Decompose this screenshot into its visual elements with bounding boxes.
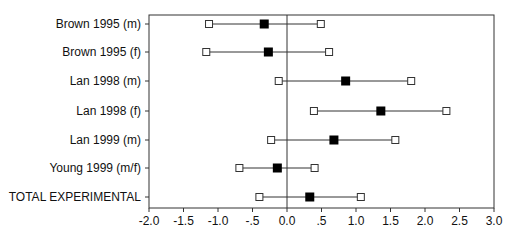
x-tick-label: 0.0	[279, 214, 296, 228]
point-estimate-marker	[264, 48, 273, 57]
ci-bound-marker	[408, 78, 415, 85]
x-tick-label: .5	[316, 214, 326, 228]
ci-bound-marker	[236, 165, 243, 172]
x-tick-label: -1.0	[208, 214, 229, 228]
x-tick-label: 2.5	[451, 214, 468, 228]
study-row: Lan 1998 (f)	[76, 104, 450, 118]
row-label: Lan 1998 (m)	[70, 74, 141, 88]
study-row: Lan 1998 (m)	[70, 74, 415, 88]
ci-bound-marker	[357, 194, 364, 201]
x-tick-label: 1.0	[348, 214, 365, 228]
row-label: Brown 1995 (m)	[56, 17, 141, 31]
x-tick-label: 1.5	[382, 214, 399, 228]
ci-bound-marker	[203, 49, 210, 56]
x-tick-label: -.5	[245, 214, 259, 228]
ci-bound-marker	[256, 194, 263, 201]
ci-bound-marker	[392, 137, 399, 144]
ci-bound-marker	[275, 78, 282, 85]
ci-bound-marker	[310, 108, 317, 115]
point-estimate-marker	[376, 107, 385, 116]
row-label: Brown 1995 (f)	[62, 45, 141, 59]
x-tick-label: -1.5	[173, 214, 194, 228]
study-row: Brown 1995 (f)	[62, 45, 332, 59]
x-axis: -2.0-1.5-1.0-.50.0.51.01.52.02.53.0	[139, 208, 503, 228]
row-label: TOTAL EXPERIMENTAL	[9, 190, 142, 204]
study-row: Lan 1999 (m)	[70, 133, 399, 147]
row-label: Young 1999 (m/f)	[49, 161, 141, 175]
point-estimate-marker	[273, 164, 282, 173]
x-tick-label: 3.0	[486, 214, 503, 228]
forest-plot: Brown 1995 (m)Brown 1995 (f)Lan 1998 (m)…	[0, 0, 512, 237]
ci-bound-marker	[326, 49, 333, 56]
x-tick-label: 2.0	[417, 214, 434, 228]
study-row: TOTAL EXPERIMENTAL	[9, 190, 365, 204]
point-estimate-marker	[305, 193, 314, 202]
ci-bound-marker	[268, 137, 275, 144]
point-estimate-marker	[329, 136, 338, 145]
ci-bound-marker	[317, 21, 324, 28]
study-row: Young 1999 (m/f)	[49, 161, 318, 175]
study-row: Brown 1995 (m)	[56, 17, 325, 31]
row-label: Lan 1998 (f)	[76, 104, 141, 118]
point-estimate-marker	[260, 20, 269, 29]
row-label: Lan 1999 (m)	[70, 133, 141, 147]
ci-bound-marker	[206, 21, 213, 28]
study-rows: Brown 1995 (m)Brown 1995 (f)Lan 1998 (m)…	[9, 17, 450, 204]
ci-bound-marker	[311, 165, 318, 172]
ci-bound-marker	[443, 108, 450, 115]
x-tick-label: -2.0	[139, 214, 160, 228]
point-estimate-marker	[341, 77, 350, 86]
